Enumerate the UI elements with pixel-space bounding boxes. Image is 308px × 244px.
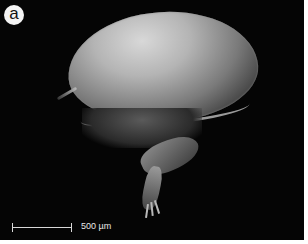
claw-1 (145, 204, 149, 218)
micrograph-panel: a 500 µm (0, 0, 304, 240)
claw-3 (154, 200, 160, 214)
scale-bar (12, 227, 72, 228)
scale-bar-label: 500 µm (81, 221, 111, 231)
panel-label: a (4, 5, 24, 25)
